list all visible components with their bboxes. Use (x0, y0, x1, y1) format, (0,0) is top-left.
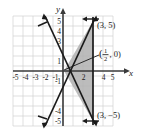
x-tick-label-2: 2 (82, 73, 86, 82)
y-axis-label: y (55, 4, 60, 14)
intercept-label-rest: , 0) (110, 49, 122, 59)
x-tick-label-neg3: -3 (32, 73, 38, 82)
point-label-3-5: (3, 5) (97, 20, 116, 30)
intercept-fraction-numerator: 1 (104, 47, 107, 54)
x-tick-label-4: 4 (102, 73, 106, 82)
x-tick-label-neg2: -2 (42, 73, 48, 82)
y-tick-label-5: 5 (57, 17, 61, 26)
coordinate-plane-figure: x y -5 -4 -3 -2 -1 2 4 5 5 4 3 1 -1 -4 -… (0, 0, 141, 134)
x-tick-label-neg5: -5 (12, 73, 18, 82)
y-tick-labels-positive: 5 4 3 1 (57, 17, 61, 66)
y-tick-label-neg1: -1 (55, 77, 61, 86)
x-tick-label-5: 5 (111, 73, 115, 82)
graph-svg: x y -5 -4 -3 -2 -1 2 4 5 5 4 3 1 -1 -4 -… (0, 0, 141, 134)
y-tick-label-neg5: -5 (55, 117, 61, 126)
y-tick-label-neg4: -4 (55, 107, 61, 116)
x-axis-label: x (128, 68, 133, 78)
intercept-fraction-denominator: 2 (104, 55, 107, 62)
x-tick-label-neg4: -4 (22, 73, 28, 82)
intercept-paren-open: ( (99, 47, 103, 60)
point-label-3-neg5: (3, −5) (97, 110, 120, 120)
y-tick-label-4: 4 (57, 27, 61, 36)
y-tick-label-3: 3 (57, 37, 61, 46)
y-tick-label-1: 1 (57, 57, 61, 66)
